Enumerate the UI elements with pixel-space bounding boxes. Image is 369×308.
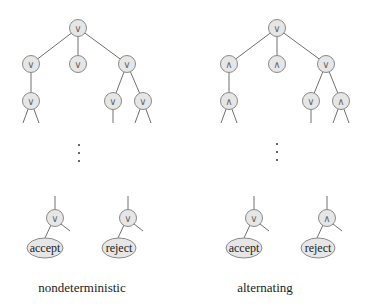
accept-leaf: accept bbox=[30, 241, 61, 255]
or-operator-icon: ∨ bbox=[27, 96, 34, 107]
reject-leaf: reject bbox=[305, 241, 332, 255]
tree-edges bbox=[23, 28, 151, 123]
tree-node-l2-2: ∧ bbox=[269, 56, 286, 73]
and-operator-icon: ∧ bbox=[225, 59, 232, 70]
or-operator-icon: ∨ bbox=[123, 59, 130, 70]
or-operator-icon: ∨ bbox=[74, 59, 81, 70]
or-operator-icon: ∨ bbox=[27, 59, 34, 70]
vertical-ellipsis-icon bbox=[276, 143, 278, 161]
reject-leaf: reject bbox=[106, 241, 133, 255]
tree-node-root: ∨ bbox=[269, 20, 286, 37]
tree-node-l3-2: ∨ bbox=[105, 93, 122, 110]
alternating-tree: ∨ ∧ ∧ ∨ ∧ ∨ ∧ bbox=[221, 20, 350, 296]
nondeterministic-tree: ∨ ∨ ∨ ∨ ∨ ∨ ∨ bbox=[23, 20, 152, 296]
tree-node-l3-1: ∧ bbox=[221, 93, 238, 110]
and-operator-icon: ∧ bbox=[323, 213, 330, 224]
or-operator-icon: ∨ bbox=[322, 59, 329, 70]
and-operator-icon: ∧ bbox=[337, 96, 344, 107]
tree-node-l2-2: ∨ bbox=[70, 56, 87, 73]
accept-leaf: accept bbox=[229, 241, 260, 255]
or-operator-icon: ∨ bbox=[250, 213, 257, 224]
accept-branch: ∨ accept bbox=[27, 196, 70, 258]
tree-edges bbox=[221, 28, 349, 123]
tree-node-root: ∨ bbox=[70, 20, 87, 37]
or-operator-icon: ∨ bbox=[109, 96, 116, 107]
tree-node-l3-3: ∨ bbox=[135, 93, 152, 110]
and-operator-icon: ∧ bbox=[273, 59, 280, 70]
caption-alternating: alternating bbox=[237, 280, 293, 295]
tree-node-l2-3: ∨ bbox=[318, 56, 335, 73]
computation-trees-diagram: ∨ ∨ ∨ ∨ ∨ ∨ ∨ bbox=[0, 0, 369, 308]
tree-node-l3-1: ∨ bbox=[23, 93, 40, 110]
accept-branch: ∨ accept bbox=[226, 196, 269, 258]
tree-node-l2-1: ∨ bbox=[23, 56, 40, 73]
or-operator-icon: ∨ bbox=[273, 23, 280, 34]
reject-branch: ∨ reject bbox=[102, 196, 143, 258]
caption-nondeterministic: nondeterministic bbox=[38, 280, 126, 295]
reject-branch: ∧ reject bbox=[301, 196, 342, 258]
and-operator-icon: ∧ bbox=[225, 96, 232, 107]
tree-node-l2-1: ∧ bbox=[221, 56, 238, 73]
tree-node-l3-3: ∧ bbox=[333, 93, 350, 110]
or-operator-icon: ∨ bbox=[307, 96, 314, 107]
or-operator-icon: ∨ bbox=[139, 96, 146, 107]
or-operator-icon: ∨ bbox=[74, 23, 81, 34]
or-operator-icon: ∨ bbox=[51, 213, 58, 224]
or-operator-icon: ∨ bbox=[124, 213, 131, 224]
tree-node-l3-2: ∨ bbox=[303, 93, 320, 110]
tree-node-l2-3: ∨ bbox=[119, 56, 136, 73]
vertical-ellipsis-icon bbox=[78, 144, 80, 162]
